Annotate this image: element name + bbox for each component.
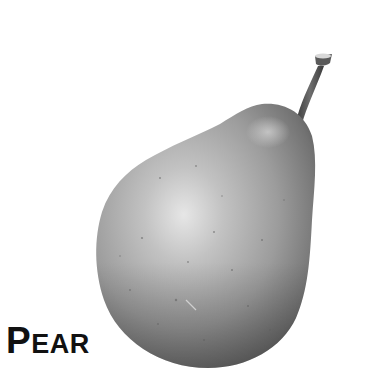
pear-body	[96, 104, 315, 368]
fruit-name-label: PEAR	[6, 322, 90, 359]
label-initial: P	[6, 320, 31, 361]
stem-icon	[296, 54, 332, 125]
label-rest: EAR	[31, 329, 90, 359]
